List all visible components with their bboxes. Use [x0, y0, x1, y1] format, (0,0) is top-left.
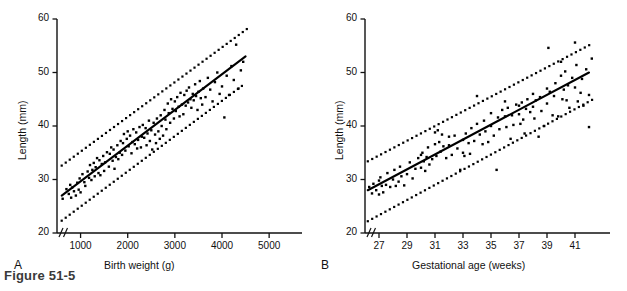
- x-tick-label: 5000: [249, 240, 289, 251]
- upper-prediction-band: [61, 28, 248, 167]
- y-tick-label: 60: [331, 12, 357, 23]
- y-tick-label: 20: [23, 226, 49, 237]
- x-tick-label: 3000: [155, 240, 195, 251]
- x-tick-label: 4000: [202, 240, 242, 251]
- panel-a-y-axis-title: Length (mm): [16, 100, 28, 160]
- figure-caption: Figure 51-5: [4, 268, 76, 283]
- panel-b-x-axis-title: Gestational age (weeks): [412, 259, 525, 271]
- panel-b-letter: B: [321, 258, 329, 272]
- y-tick-label: 20: [331, 226, 357, 237]
- y-tick-label: 40: [23, 119, 49, 130]
- y-tick-label: 30: [23, 173, 49, 184]
- upper-prediction-band: [367, 44, 591, 162]
- x-tick-label: 1000: [61, 240, 101, 251]
- scatter-points: [61, 43, 244, 199]
- x-tick-label: 2000: [108, 240, 148, 251]
- y-tick-label: 30: [331, 173, 357, 184]
- x-tick-label: 41: [555, 240, 595, 251]
- y-tick-label: 60: [23, 12, 49, 23]
- panel-a: Length (mm) Birth weight (g) A 203040506…: [0, 0, 314, 291]
- y-tick-label: 40: [331, 119, 357, 130]
- lower-prediction-band: [61, 85, 243, 222]
- panel-b: Length (mm) Gestational age (weeks) B 20…: [313, 0, 627, 291]
- figure-51-5: Length (mm) Birth weight (g) A 203040506…: [0, 0, 627, 291]
- y-tick-label: 50: [331, 66, 357, 77]
- panel-a-x-axis-title: Birth weight (g): [104, 259, 175, 271]
- regression-line: [62, 56, 246, 195]
- regression-line: [368, 73, 589, 191]
- panel-b-y-axis-title: Length (mm): [333, 100, 345, 160]
- y-tick-label: 50: [23, 66, 49, 77]
